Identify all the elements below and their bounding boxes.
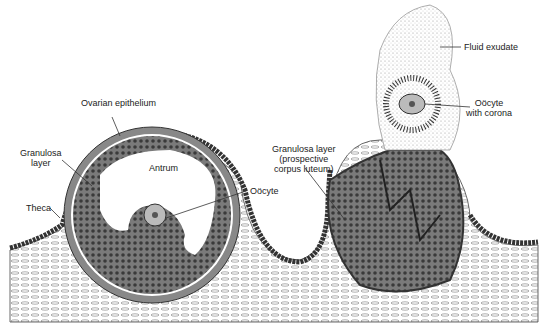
label-oocyte: Oöcyte: [250, 186, 279, 196]
label-granulosa-prospective: Granulosa layer (prospective corpus lute…: [272, 144, 336, 174]
label-antrum: Antrum: [149, 163, 178, 173]
label-granulosa-layer: Granulosa layer: [20, 148, 62, 168]
ruptured-follicle: [328, 150, 463, 291]
label-line: Granulosa: [20, 148, 62, 158]
label-theca: Theca: [26, 203, 51, 213]
label-line: Granulosa layer: [272, 144, 336, 154]
ovary-illustration: [0, 0, 539, 335]
label-fluid-exudate: Fluid exudate: [464, 42, 518, 52]
label-line: corpus luteum): [272, 164, 336, 174]
fluid-exudate: [376, 5, 460, 150]
label-line: Oöcyte: [466, 98, 512, 108]
label-line: with corona: [466, 108, 512, 118]
label-oocyte-corona: Oöcyte with corona: [466, 98, 512, 118]
label-line: (prospective: [272, 154, 336, 164]
label-ovarian-epithelium: Ovarian epithelium: [81, 98, 156, 108]
label-line: layer: [20, 158, 62, 168]
